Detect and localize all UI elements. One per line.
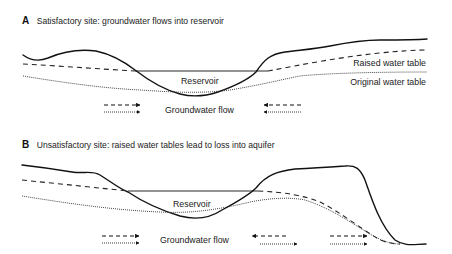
panel-b-reservoir-label: Reservoir [173,199,211,209]
panel-b-flow-label: Groundwater flow [160,235,230,245]
panel-b-letter: B [22,139,29,150]
panel-b-flow-arrows-middle [252,236,297,244]
panel-a-original-label: Original water table [350,77,426,87]
panel-b-flow-arrows-right [330,236,367,244]
panel-a-flow-label: Groundwater flow [165,105,235,115]
panel-a-raised-label: Raised water table [353,58,426,68]
panel-a-flow-arrows-right [264,105,301,112]
panel-a: A Satisfactory site: groundwater flows i… [22,10,427,115]
panel-b-title: B Unsatisfactory site: raised water tabl… [22,134,275,151]
panel-b: B Unsatisfactory site: raised water tabl… [22,134,426,245]
panel-a-title-text: Satisfactory site: groundwater flows int… [37,16,224,26]
panel-b-flow-arrows-left [102,236,139,243]
reservoir-groundwater-diagram: A Satisfactory site: groundwater flows i… [0,0,452,254]
panel-a-letter: A [22,15,29,26]
panel-a-title: A Satisfactory site: groundwater flows i… [22,10,224,27]
panel-a-reservoir-label: Reservoir [181,76,219,86]
panel-a-flow-arrows-left [104,105,140,112]
panel-b-title-text: Unsatisfactory site: raised water tables… [37,140,275,150]
panel-b-ground-surface [22,165,426,245]
